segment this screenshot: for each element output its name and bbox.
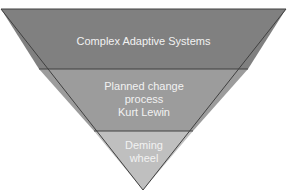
level-2-line-2: process	[94, 93, 194, 106]
level-2-label: Planned change process Kurt Lewin	[94, 80, 194, 119]
level-3-label: Deming wheel	[114, 139, 174, 165]
level-3-line-2: wheel	[114, 152, 174, 165]
level-2-line-3: Kurt Lewin	[94, 106, 194, 119]
level-2-line-1: Planned change	[94, 80, 194, 93]
level-3-line-1: Deming	[114, 139, 174, 152]
level-1-label: Complex Adaptive Systems	[40, 35, 247, 48]
level-1-text: Complex Adaptive Systems	[77, 35, 211, 47]
